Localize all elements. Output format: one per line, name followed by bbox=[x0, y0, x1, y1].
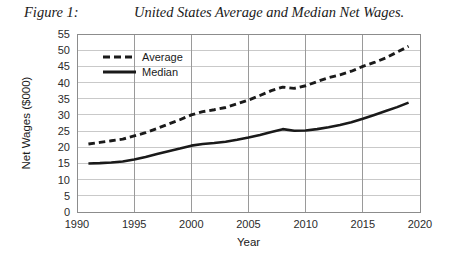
y-tick-label: 0 bbox=[64, 206, 70, 218]
y-tick-label: 55 bbox=[58, 28, 70, 40]
x-tick-label: 2005 bbox=[236, 218, 260, 230]
figure-container: Figure 1: United States Average and Medi… bbox=[0, 0, 456, 264]
line-chart: 0510152025303540455055199019952000200520… bbox=[0, 26, 456, 264]
y-tick-label: 30 bbox=[58, 109, 70, 121]
y-tick-label: 45 bbox=[58, 60, 70, 72]
y-tick-label: 25 bbox=[58, 125, 70, 137]
x-tick-label: 2010 bbox=[293, 218, 317, 230]
y-tick-label: 15 bbox=[58, 157, 70, 169]
y-tick-label: 40 bbox=[58, 77, 70, 89]
x-tick-label: 1995 bbox=[122, 218, 146, 230]
y-tick-label: 35 bbox=[58, 93, 70, 105]
y-tick-label: 50 bbox=[58, 44, 70, 56]
y-tick-label: 5 bbox=[64, 190, 70, 202]
x-tick-label: 2015 bbox=[351, 218, 375, 230]
y-tick-label: 10 bbox=[58, 174, 70, 186]
figure-label: Figure 1: bbox=[24, 4, 79, 21]
x-tick-label: 1990 bbox=[65, 218, 89, 230]
x-axis-title: Year bbox=[237, 236, 260, 248]
legend-label-median: Median bbox=[142, 66, 178, 78]
figure-title: United States Average and Median Net Wag… bbox=[134, 4, 404, 21]
y-tick-label: 20 bbox=[58, 141, 70, 153]
figure-caption: Figure 1: United States Average and Medi… bbox=[0, 4, 456, 26]
chart-area: 0510152025303540455055199019952000200520… bbox=[0, 26, 456, 264]
x-tick-label: 2000 bbox=[179, 218, 203, 230]
y-axis-title: Net Wages ($000) bbox=[20, 76, 32, 169]
x-tick-label: 2020 bbox=[408, 218, 432, 230]
legend-label-average: Average bbox=[142, 51, 183, 63]
